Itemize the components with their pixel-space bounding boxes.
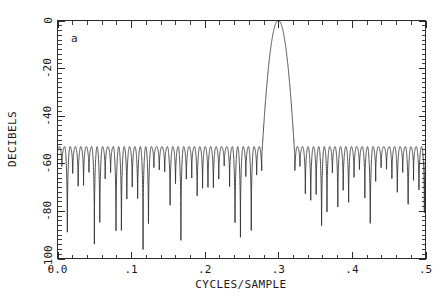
x-tick-label: .2	[198, 263, 211, 276]
panel-label: a	[71, 32, 78, 45]
x-tick-label: .4	[345, 263, 359, 276]
x-tick-label: .5	[419, 263, 432, 276]
x-axis-title: CYCLES/SAMPLE	[195, 278, 286, 291]
y-tick-label: -60	[42, 153, 55, 173]
frequency-response-figure: 0.0.1.2.3.4.5 0-20-40-60-80-100 CYCLES/S…	[0, 0, 446, 302]
y-tick-label: -80	[42, 201, 55, 221]
y-tick-label: -40	[42, 106, 55, 126]
y-tick-label: 0	[42, 17, 55, 24]
y-tick-label: -20	[42, 58, 55, 78]
x-tick-label: .3	[272, 263, 285, 276]
plot-svg: 0.0.1.2.3.4.5 0-20-40-60-80-100 CYCLES/S…	[0, 0, 446, 302]
x-tick-label: .1	[124, 263, 137, 276]
y-tick-label: -100	[42, 245, 55, 272]
y-axis-title: DECIBELS	[6, 111, 19, 167]
